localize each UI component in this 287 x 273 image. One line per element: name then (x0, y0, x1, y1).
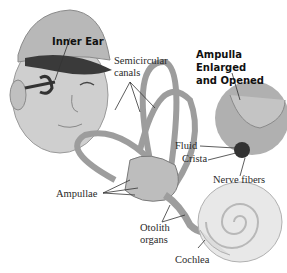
vestibule-illustration (125, 156, 178, 201)
cochlea-illustration (198, 182, 282, 262)
label-semicircular-line2: canals (114, 67, 140, 79)
inset-title-line2: and Opened (196, 74, 287, 87)
label-ampullae: Ampullae (56, 188, 97, 200)
label-nerve-fibers: Nerve fibers (213, 174, 265, 186)
label-otolith-line2: organs (140, 234, 168, 246)
inset-title: Ampulla Enlarged and Opened (196, 48, 287, 87)
label-fluid: Fluid (175, 140, 197, 152)
label-crista: Crista (182, 153, 207, 165)
label-inner-ear: Inner Ear (52, 36, 104, 48)
label-semicircular-line1: Semicircular (114, 55, 168, 67)
label-otolith-line1: Otolith (140, 222, 170, 234)
inner-ear-diagram: Inner Ear Semicircular canals Ampulla En… (0, 0, 287, 273)
inset-title-line1: Ampulla Enlarged (196, 48, 287, 74)
label-cochlea: Cochlea (175, 254, 209, 266)
